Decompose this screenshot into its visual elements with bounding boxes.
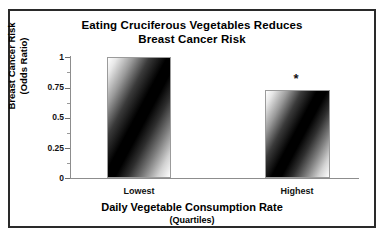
x-axis-title-line-1: Daily Vegetable Consumption Rate [8, 200, 376, 214]
y-tick-label-025: 0.25 [24, 144, 64, 153]
plot-area [70, 57, 358, 178]
bar-highest[interactable] [265, 90, 330, 178]
y-axis-tick-labels: 1 0.75 0.5 0.25 0 [20, 0, 64, 234]
chart-screenshot: Eating Cruciferous Vegetables Reduces Br… [0, 0, 386, 234]
x-category-label-highest: Highest [252, 186, 342, 196]
bar-lowest[interactable] [107, 57, 171, 178]
y-tick-label-1: 1 [24, 53, 64, 62]
x-category-label-lowest: Lowest [94, 186, 184, 196]
significance-asterisk: * [294, 74, 299, 84]
chart-title-line-2: Breast Cancer Risk [138, 33, 245, 45]
y-tick-label-05: 0.5 [24, 113, 64, 122]
y-tick-label-075: 0.75 [24, 83, 64, 92]
y-axis-title-line-1: Breast Cancer Risk [6, 0, 18, 132]
x-axis-title: Daily Vegetable Consumption Rate (Quarti… [8, 200, 376, 226]
x-axis-title-line-2: (Quartiles) [8, 214, 376, 226]
x-axis-line [70, 178, 359, 179]
y-tick-label-0: 0 [24, 174, 64, 183]
chart-title-line-1: Eating Cruciferous Vegetables Reduces [82, 19, 303, 31]
